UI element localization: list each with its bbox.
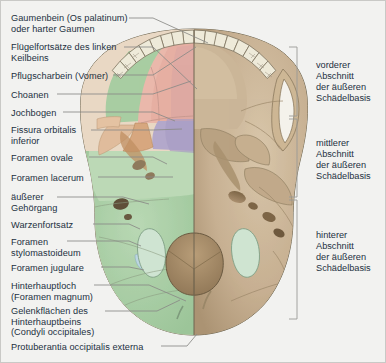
label-hinterhauptloch: Hinterhauptloch(Foramen magnum)	[11, 281, 93, 302]
label-foramen-lacerum: Foramen lacerum	[11, 173, 84, 184]
label-vorderer-abschnitt: vordererAbschnittder äußerenSchädelbasis	[316, 60, 371, 104]
label-foramen-jugulare: Foramen jugulare	[11, 263, 84, 274]
label-foramen-stylomastoideum: Foramenstylomastoideum	[11, 237, 81, 258]
label-gaumenbein: Gaumenbein (Os palatinum)oder harter Gau…	[11, 13, 128, 34]
bracket-vorderer	[289, 47, 297, 116]
bracket-mittlerer	[289, 119, 297, 197]
label-aeusserer-gehoergang: äußererGehörgang	[11, 192, 57, 213]
label-warzenfortsatz: Warzenfortsatz	[11, 220, 73, 231]
label-foramen-ovale: Foramen ovale	[11, 153, 73, 164]
bracket-hinterer	[289, 200, 297, 319]
label-gelenkflaechen: Gelenkflächen desHinterhauptbeins(Condyl…	[11, 306, 94, 338]
label-fissura-orbitalis-inferior: Fissura orbitalisinferior	[11, 125, 76, 146]
label-mittlerer-abschnitt: mittlererAbschnittder äußerenSchädelbasi…	[316, 138, 371, 182]
label-protuberantia-occipitalis-externa: Protuberantia occipitalis externa	[11, 342, 143, 353]
label-pflugscharbein: Pflugscharbein (Vomer)	[11, 71, 108, 82]
label-choanen: Choanen	[11, 90, 49, 101]
label-fluegelfortsaetze: Flügelfortsätze des linkenKeilbeins	[11, 42, 116, 63]
label-hinterer-abschnitt: hintererAbschnittder äußerenSchädelbasis	[316, 230, 371, 274]
label-jochbogen: Jochbogen	[11, 108, 56, 119]
anatomy-figure: Gaumenbein (Os palatinum)oder harter Gau…	[0, 0, 386, 363]
